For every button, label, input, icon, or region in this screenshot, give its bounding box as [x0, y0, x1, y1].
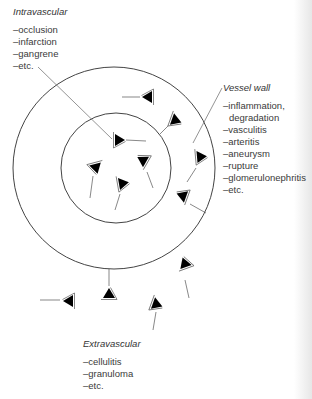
intravascular-item: –gangrene: [13, 48, 67, 60]
vessel-wall-item: –inflammation,: [223, 100, 306, 112]
intravascular-item: –infarction: [13, 36, 67, 48]
extravascular-item: –granuloma: [83, 368, 141, 380]
immune-complex-icon: [114, 132, 126, 148]
vessel-wall-item: –glomerulonephritis: [223, 172, 306, 184]
intravascular-item: –etc.: [13, 60, 67, 72]
vessel-wall-heading: Vessel wall: [223, 82, 306, 94]
extravascular-item: –cellulitis: [83, 356, 141, 368]
intravascular-leader-line: [38, 67, 112, 139]
immune-complex-icon: [173, 186, 190, 205]
vessel-wall-leader-line: [193, 88, 222, 143]
vessel-wall-label-block: Vessel wall –inflammation, degradation –…: [223, 82, 306, 196]
intravascular-item: –occlusion: [13, 24, 67, 36]
immune-complex-icon: [175, 254, 194, 271]
vessel-wall-item: degradation: [223, 112, 306, 124]
immune-complex-icon: [101, 288, 117, 300]
extravascular-heading: Extravascular: [83, 338, 141, 350]
extravascular-label-block: Extravascular –cellulitis –granuloma –et…: [83, 338, 141, 392]
immune-complex-icon: [87, 160, 106, 176]
outer-vessel-wall-circle: [13, 67, 215, 269]
intravascular-heading: Intravascular: [13, 6, 67, 18]
immune-complex-icon: [195, 148, 208, 165]
immune-complex-icon: [122, 89, 154, 105]
vessel-wall-item: –etc.: [223, 184, 306, 196]
vessel-wall-item: –arteritis: [223, 136, 306, 148]
vessel-wall-item: –aneurysm: [223, 148, 306, 160]
immune-complex-icon: [116, 174, 131, 192]
immune-complex-icon: [133, 150, 151, 170]
intravascular-label-block: Intravascular –occlusion –infarction –ga…: [13, 6, 67, 72]
extravascular-item: –etc.: [83, 380, 141, 392]
immune-complex-icon: [63, 293, 75, 309]
immune-complex-icon: [149, 295, 166, 314]
immune-complex-icon: [168, 111, 185, 130]
vessel-wall-item: –vasculitis: [223, 124, 306, 136]
vessel-wall-item: –rupture: [223, 160, 306, 172]
